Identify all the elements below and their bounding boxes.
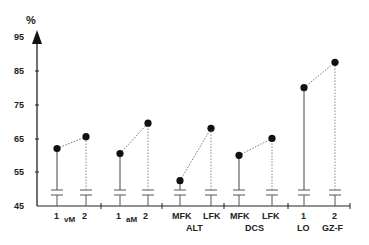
pair-connector	[304, 62, 335, 87]
pair-connector	[239, 138, 272, 155]
x-label-dcs-group: DCS	[245, 223, 264, 233]
y-tick-45: 45	[14, 201, 24, 211]
y-tick-85: 85	[14, 66, 24, 76]
x-label-gzf-group: GZ-F	[322, 223, 343, 233]
x-label-dcs-lfk: LFK	[262, 211, 280, 221]
data-point	[82, 133, 89, 140]
data-point	[176, 177, 183, 184]
y-tick-95: 95	[14, 32, 24, 42]
data-point	[53, 145, 60, 152]
x-label-dcs-mfk: MFK	[230, 211, 250, 221]
y-unit-label: %	[26, 14, 36, 26]
data-point	[207, 125, 214, 132]
chart: % 95 85 75 65 55 45 1 vM 2 1 aM 2 MFK LF…	[0, 0, 369, 245]
y-axis-arrow-icon	[32, 30, 42, 44]
x-label-gzf-2: 2	[332, 211, 337, 221]
x-label-lo-group: LO	[297, 223, 310, 233]
data-point	[331, 59, 338, 66]
x-label-am-1: 1	[116, 211, 121, 221]
x-label-lo-1: 1	[301, 211, 306, 221]
data-point	[268, 135, 275, 142]
x-labels: 1 vM 2 1 aM 2 MFK LFK ALT MFK LFK DCS 1 …	[54, 211, 343, 233]
data-point	[235, 152, 242, 159]
pair-connector	[120, 123, 148, 153]
x-label-am-2: 2	[143, 211, 148, 221]
x-label-alt-mfk: MFK	[172, 211, 192, 221]
data-point	[116, 150, 123, 157]
x-label-am-group: aM	[126, 215, 137, 224]
data-point	[144, 120, 151, 127]
x-label-alt-lfk: LFK	[203, 211, 221, 221]
y-tick-65: 65	[14, 134, 24, 144]
pair-connector	[57, 137, 86, 149]
data-series	[51, 59, 341, 206]
y-tick-75: 75	[14, 100, 24, 110]
y-tick-labels: 95 85 75 65 55 45	[14, 32, 24, 211]
x-label-vm-2: 2	[82, 211, 87, 221]
y-tick-55: 55	[14, 167, 24, 177]
pair-connector	[180, 128, 211, 180]
x-label-vm-group: vM	[64, 215, 75, 224]
data-point	[300, 84, 307, 91]
x-label-alt-group: ALT	[186, 223, 203, 233]
x-label-vm-1: 1	[54, 211, 59, 221]
